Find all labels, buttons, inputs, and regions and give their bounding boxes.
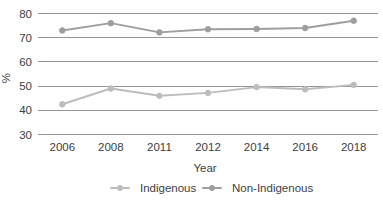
- data-point: [351, 82, 357, 88]
- x-tick-label: 2016: [292, 141, 318, 153]
- legend-swatch-marker: [117, 185, 123, 191]
- x-tick-label: 2018: [341, 141, 367, 153]
- y-tick-label: 70: [19, 32, 32, 44]
- line-chart: 304050607080 200620082011201220142016201…: [0, 0, 383, 206]
- data-point: [205, 90, 211, 96]
- x-tick-label: 2006: [49, 141, 75, 153]
- data-point: [59, 101, 65, 107]
- x-axis-label: Year: [193, 162, 216, 174]
- data-point: [302, 86, 308, 92]
- x-tick-label: 2014: [244, 141, 270, 153]
- legend-label: Non-Indigenous: [232, 182, 313, 194]
- x-tick-label: 2008: [98, 141, 124, 153]
- y-axis-label: %: [0, 73, 12, 83]
- legend-label: Indigenous: [140, 182, 197, 194]
- data-point: [59, 28, 65, 34]
- data-point: [157, 29, 163, 35]
- y-tick-label: 80: [19, 8, 32, 20]
- chart-canvas: 304050607080 200620082011201220142016201…: [0, 0, 383, 206]
- y-tick-label: 40: [19, 104, 32, 116]
- data-point: [351, 18, 357, 24]
- data-point: [205, 26, 211, 32]
- data-point: [108, 86, 114, 92]
- y-tick-label: 60: [19, 56, 32, 68]
- data-point: [108, 20, 114, 26]
- x-tick-label: 2011: [147, 141, 172, 153]
- data-point: [254, 84, 260, 90]
- x-tick-label: 2012: [195, 141, 221, 153]
- data-point: [254, 26, 260, 32]
- data-point: [157, 93, 163, 99]
- y-tick-label: 50: [19, 80, 32, 92]
- legend-swatch-marker: [209, 185, 215, 191]
- data-point: [302, 25, 308, 31]
- y-tick-label: 30: [19, 129, 32, 141]
